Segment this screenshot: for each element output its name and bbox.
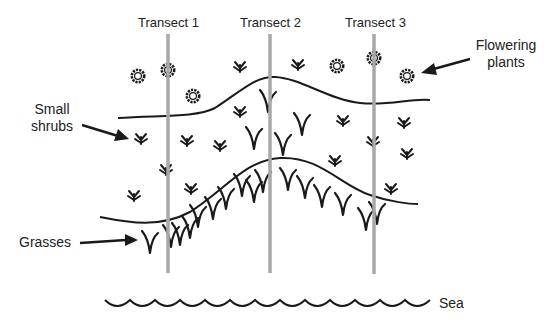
sea-label: Sea	[439, 295, 464, 312]
grasses-label: Grasses	[19, 234, 71, 251]
flowering-plants-label-line1: Flowering	[466, 37, 546, 54]
small-shrubs-label-line1: Small	[22, 101, 82, 118]
sea-waves	[105, 300, 430, 306]
upper-boundary-curve	[118, 77, 430, 118]
small-shrubs-label: Small shrubs	[22, 101, 82, 135]
flowering-plants-label: Flowering plants	[466, 37, 546, 71]
transect-3-label: Transect 3	[345, 15, 406, 30]
transect-1-label: Transect 1	[138, 15, 199, 30]
arrow-grasses	[80, 234, 138, 246]
arrow-flowering-plants	[421, 59, 470, 75]
arrow-small-shrubs	[82, 125, 129, 141]
transect-2-label: Transect 2	[240, 15, 301, 30]
small-shrubs-label-line2: shrubs	[22, 118, 82, 135]
flowering-plants-label-line2: plants	[466, 54, 546, 71]
